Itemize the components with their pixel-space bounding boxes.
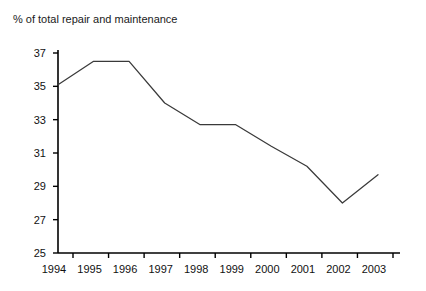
line-chart: % of total repair and maintenance 252729… (0, 0, 426, 291)
y-axis-tick-label: 25 (24, 247, 46, 259)
x-axis-tick-label: 2003 (354, 263, 394, 275)
x-axis-tick-label: 1996 (105, 263, 145, 275)
plot-area (0, 0, 426, 291)
y-axis-tick-label: 35 (24, 80, 46, 92)
y-axis-tick-label: 33 (24, 114, 46, 126)
x-axis-tick-label: 2002 (318, 263, 358, 275)
y-axis-tick-label: 37 (24, 47, 46, 59)
x-axis-tick-label: 2000 (247, 263, 287, 275)
data-series-line (58, 61, 378, 203)
axis-lines (58, 50, 400, 253)
x-axis-tick-label: 1999 (212, 263, 252, 275)
x-axis-tick-label: 1995 (70, 263, 110, 275)
x-axis-tick-label: 1997 (141, 263, 181, 275)
x-axis-tick-label: 1994 (34, 263, 74, 275)
y-axis-tick-label: 29 (24, 180, 46, 192)
x-axis-tick-label: 2001 (283, 263, 323, 275)
y-axis-tick-label: 27 (24, 214, 46, 226)
x-axis-tick-label: 1998 (176, 263, 216, 275)
y-axis-tick-label: 31 (24, 147, 46, 159)
